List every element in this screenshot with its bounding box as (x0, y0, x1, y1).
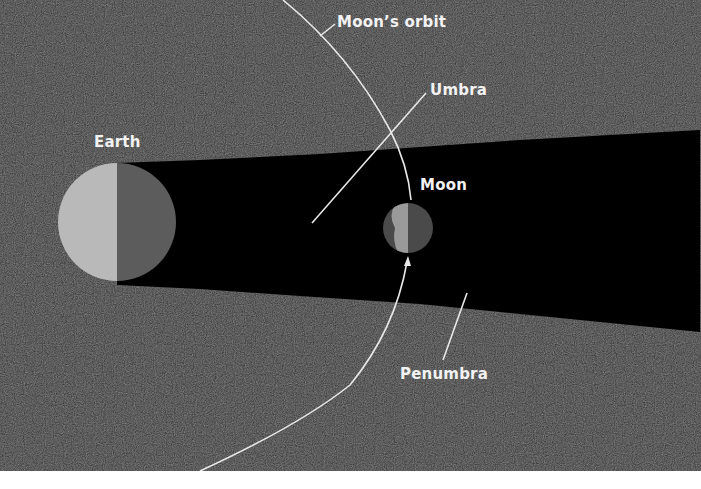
diagram-canvas (0, 0, 701, 489)
moon-icon (383, 203, 433, 253)
moons-orbit-label: Moon’s orbit (337, 13, 446, 31)
umbra-label: Umbra (430, 81, 487, 99)
moon-label: Moon (420, 176, 467, 194)
eclipse-diagram: Earth Moon’s orbit Umbra Moon Penumbra (0, 0, 701, 489)
earth-label: Earth (94, 133, 141, 151)
penumbra-label: Penumbra (400, 365, 488, 383)
bottom-band (0, 471, 701, 489)
